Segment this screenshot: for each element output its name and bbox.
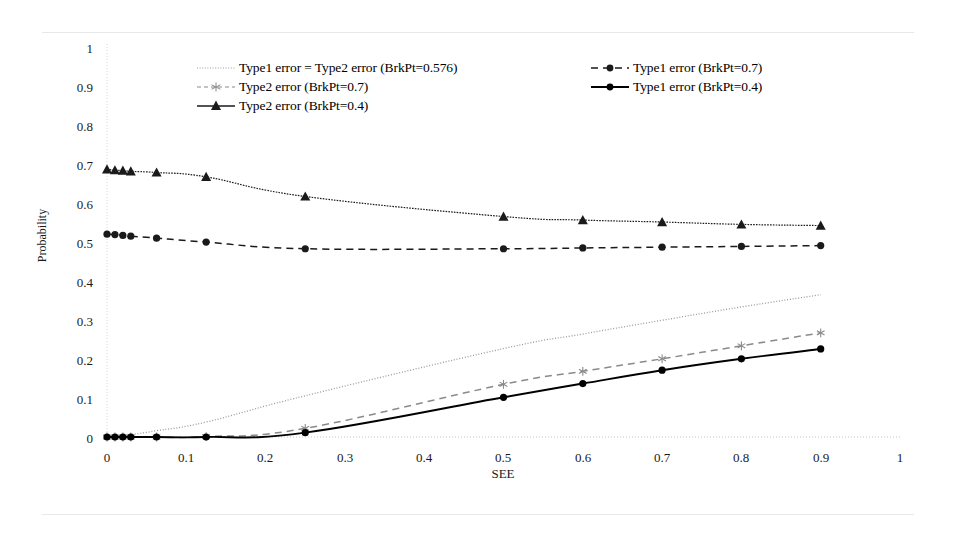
legend-item-label: Type2 error (BrkPt=0.4)	[239, 98, 368, 114]
circle-icon	[607, 64, 614, 71]
data-point-circle	[659, 244, 666, 251]
legend-left: Type1 error = Type2 error (BrkPt=0.576) …	[196, 58, 457, 115]
triangle-icon	[211, 100, 221, 110]
chart-series	[103, 328, 824, 441]
data-point-circle	[203, 433, 210, 440]
data-point-circle	[111, 433, 118, 440]
dashed-star-key	[196, 78, 236, 96]
data-point-circle	[127, 433, 134, 440]
data-point-circle	[579, 244, 586, 251]
data-point-circle	[817, 345, 824, 352]
legend-item-label: Type2 error (BrkPt=0.7)	[239, 79, 368, 95]
legend-item[interactable]: Type2 error (BrkPt=0.4)	[196, 96, 457, 115]
legend-item[interactable]: Type2 error (BrkPt=0.7)	[196, 77, 457, 96]
data-point-circle	[738, 355, 745, 362]
legend-item[interactable]: Type1 error (BrkPt=0.7)	[590, 58, 762, 77]
dotted-line-key	[196, 59, 236, 77]
data-point-circle	[103, 231, 110, 238]
dashed-circle-key	[590, 59, 630, 77]
plot-area	[0, 0, 958, 537]
data-point-triangle	[110, 165, 120, 174]
chart-figure: Probability SEE 1 0.9 0.8 0.7 0.6 0.5 0.…	[0, 0, 958, 537]
series-line	[107, 169, 821, 225]
solid-triangle-key	[196, 97, 236, 115]
legend-item-label: Type1 error (BrkPt=0.7)	[633, 60, 762, 76]
data-point-circle	[302, 245, 309, 252]
legend-item-label: Type1 error (BrkPt=0.4)	[633, 79, 762, 95]
circle-icon	[607, 83, 614, 90]
legend-item-label: Type1 error = Type2 error (BrkPt=0.576)	[239, 60, 457, 76]
legend-item[interactable]: Type1 error = Type2 error (BrkPt=0.576)	[196, 58, 457, 77]
data-point-circle	[500, 394, 507, 401]
data-point-circle	[738, 243, 745, 250]
series-line	[107, 295, 821, 437]
data-point-circle	[127, 233, 134, 240]
data-point-circle	[119, 232, 126, 239]
chart-series	[103, 231, 824, 253]
series-line	[107, 333, 821, 438]
data-point-circle	[302, 429, 309, 436]
series-line	[107, 234, 821, 249]
data-point-circle	[659, 367, 666, 374]
legend-right: Type1 error (BrkPt=0.7) Type1 error (Brk…	[590, 58, 762, 96]
data-point-circle	[579, 380, 586, 387]
data-point-circle	[111, 231, 118, 238]
data-point-circle	[153, 235, 160, 242]
data-point-circle	[103, 433, 110, 440]
solid-circle-key	[590, 78, 630, 96]
data-point-circle	[500, 245, 507, 252]
chart-series	[107, 295, 821, 437]
data-point-circle	[203, 238, 210, 245]
legend-item[interactable]: Type1 error (BrkPt=0.4)	[590, 77, 762, 96]
data-point-circle	[119, 433, 126, 440]
chart-series	[102, 164, 826, 229]
data-point-triangle	[102, 164, 112, 173]
data-point-triangle	[816, 221, 826, 230]
data-point-circle	[817, 242, 824, 249]
series-layer	[102, 164, 826, 441]
data-point-circle	[153, 433, 160, 440]
